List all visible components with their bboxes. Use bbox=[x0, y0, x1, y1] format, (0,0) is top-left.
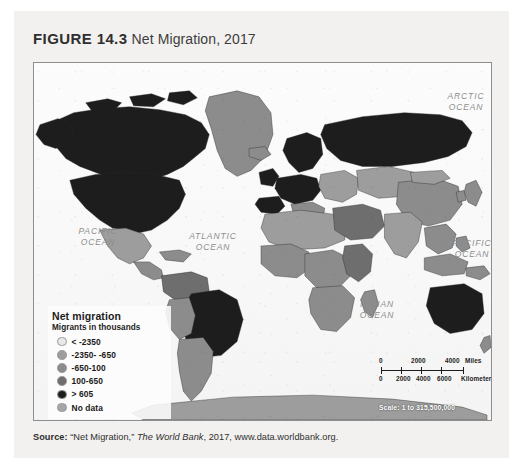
scale-miles-unit: Miles bbox=[465, 357, 481, 364]
legend-label: No data bbox=[72, 403, 103, 413]
legend-title: Net migration bbox=[52, 310, 167, 322]
scale-tick-2 bbox=[421, 367, 422, 374]
legend-swatch bbox=[57, 350, 67, 360]
scale-tick-0 bbox=[381, 367, 382, 374]
scale-rule-line bbox=[381, 370, 463, 371]
map-frame[interactable]: ARCTIC OCEANPACIFIC OCEANATLANTIC OCEANI… bbox=[33, 62, 492, 421]
scale-km-tick-4000: 4000 bbox=[416, 375, 431, 382]
figure-card: FIGURE 14.3 Net Migration, 2017 bbox=[14, 11, 509, 458]
legend-swatch bbox=[57, 363, 67, 373]
scale-tick-4 bbox=[463, 367, 464, 374]
legend-items: < -2350-2350- -650-650-100100-650> 605No… bbox=[52, 335, 167, 414]
legend-label: -2350- -650 bbox=[72, 350, 116, 360]
legend-subtitle: Migrants in thousands bbox=[52, 323, 167, 332]
source-rest: , 2017, www.data.worldbank.org. bbox=[203, 432, 338, 442]
legend-row: -650-100 bbox=[52, 361, 167, 374]
figure-number: FIGURE 14.3 bbox=[33, 30, 127, 47]
region-korea bbox=[456, 190, 466, 202]
source-work: “Net Migration,” bbox=[70, 432, 134, 442]
scale-km-unit: Kilometers bbox=[461, 375, 492, 382]
source-note: Source: “Net Migration,” The World Bank,… bbox=[33, 432, 338, 442]
legend-swatch bbox=[57, 376, 67, 386]
scale-miles-row: 0 2000 4000 Miles bbox=[379, 357, 487, 366]
scale-miles-tick-0: 0 bbox=[379, 357, 383, 364]
scale-km-row: 0 2000 4000 6000 Kilometers bbox=[379, 375, 487, 384]
legend-row: 100-650 bbox=[52, 375, 167, 388]
scale-km-tick-2000: 2000 bbox=[396, 375, 411, 382]
scale-ruler bbox=[379, 367, 487, 374]
scale-km-tick-0: 0 bbox=[379, 375, 383, 382]
legend-row: > 605 bbox=[52, 388, 167, 401]
legend-swatch bbox=[57, 337, 67, 347]
legend-row: No data bbox=[52, 401, 167, 414]
map-scale-bar: 0 2000 4000 Miles 0 2000 4000 6000 Kilom… bbox=[379, 357, 487, 384]
figure-caption: Net Migration, 2017 bbox=[132, 31, 256, 47]
scale-miles-tick-4000: 4000 bbox=[445, 357, 460, 364]
legend-swatch bbox=[57, 403, 67, 413]
scale-statement: Scale: 1 to 315,500,000 bbox=[379, 404, 455, 411]
legend-label: -650-100 bbox=[72, 363, 106, 373]
legend-label: < -2350 bbox=[72, 337, 101, 347]
page-title: FIGURE 14.3 Net Migration, 2017 bbox=[33, 30, 483, 56]
legend-label: 100-650 bbox=[72, 376, 103, 386]
map-legend: Net migration Migrants in thousands < -2… bbox=[48, 306, 171, 419]
legend-row: < -2350 bbox=[52, 335, 167, 348]
legend-swatch bbox=[57, 390, 67, 400]
scale-tick-3 bbox=[441, 367, 442, 374]
scale-tick-1 bbox=[401, 367, 402, 374]
legend-row: -2350- -650 bbox=[52, 348, 167, 361]
scale-km-tick-6000: 6000 bbox=[437, 375, 452, 382]
source-prefix: Source: bbox=[33, 432, 68, 442]
source-publication: The World Bank bbox=[137, 432, 204, 442]
scale-miles-tick-2000: 2000 bbox=[411, 357, 426, 364]
legend-label: > 605 bbox=[72, 389, 94, 399]
